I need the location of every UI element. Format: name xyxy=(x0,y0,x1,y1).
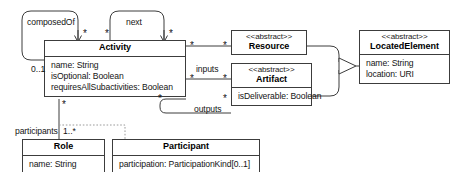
class-participant-attr-0: participation: ParticipationKind[0..1] xyxy=(119,159,254,170)
class-resource-header: <<abstract>> Resource xyxy=(232,31,306,54)
label-participants: participants xyxy=(15,126,58,136)
mult-artifact-inputs-star: * xyxy=(223,74,227,84)
mult-activity-participants-star: * xyxy=(62,100,66,110)
class-activity-attr-1: isOptional: Boolean xyxy=(51,71,180,82)
class-located-element-attributes: name: String location: URI xyxy=(360,54,449,83)
class-located-element-name: LocatedElement xyxy=(364,42,445,52)
mult-activity-outputs-star: * xyxy=(158,94,162,104)
uml-class-diagram: Activity name: String isOptional: Boolea… xyxy=(0,0,469,172)
class-located-element-attr-0: name: String xyxy=(366,58,444,69)
mult-activity-inputs-star: * xyxy=(190,74,194,84)
label-next: next xyxy=(126,17,142,27)
mult-next-right-star: * xyxy=(169,29,173,39)
class-participant[interactable]: Participant participation: Participation… xyxy=(112,139,260,172)
mult-artifact-outputs-star: * xyxy=(223,94,227,104)
class-activity[interactable]: Activity name: String isOptional: Boolea… xyxy=(44,40,186,97)
class-participant-attributes: participation: ParticipationKind[0..1] xyxy=(113,155,259,172)
class-role-header: Role xyxy=(23,140,104,155)
class-resource[interactable]: <<abstract>> Resource xyxy=(231,30,307,55)
mult-composition-end: 0..1 xyxy=(31,64,45,74)
class-artifact-header: <<abstract>> Artifact xyxy=(232,64,311,87)
class-located-element[interactable]: <<abstract>> LocatedElement name: String… xyxy=(359,30,450,84)
class-artifact-name: Artifact xyxy=(236,75,307,85)
class-role[interactable]: Role name: String xyxy=(22,139,105,172)
class-role-name: Role xyxy=(27,142,100,152)
generalization-arrowhead xyxy=(339,58,359,74)
class-participant-header: Participant xyxy=(113,140,259,155)
label-composed-of: composedOf xyxy=(27,17,75,27)
mult-activity-resource-star: * xyxy=(190,41,194,51)
edge-generalization-resource xyxy=(307,46,339,62)
class-activity-attributes: name: String isOptional: Boolean require… xyxy=(45,56,185,96)
mult-composed-of-star: * xyxy=(83,29,87,39)
class-participant-name: Participant xyxy=(117,142,255,152)
class-resource-name: Resource xyxy=(236,42,302,52)
label-inputs: inputs xyxy=(196,64,218,74)
mult-resource-end-star: * xyxy=(223,41,227,51)
label-outputs: outputs xyxy=(194,104,222,114)
class-role-attributes: name: String xyxy=(23,155,104,172)
mult-next-left-star: * xyxy=(105,29,109,39)
class-located-element-header: <<abstract>> LocatedElement xyxy=(360,31,449,54)
class-located-element-attr-1: location: URI xyxy=(366,69,444,80)
class-activity-name: Activity xyxy=(49,43,181,53)
class-activity-attr-0: name: String xyxy=(51,60,180,71)
class-role-attr-0: name: String xyxy=(29,159,99,170)
class-artifact-attr-0: isDeliverable: Boolean xyxy=(238,91,306,102)
class-activity-header: Activity xyxy=(45,41,185,56)
class-activity-attr-2: requiresAllSubactivities: Boolean xyxy=(51,82,180,93)
class-artifact[interactable]: <<abstract>> Artifact isDeliverable: Boo… xyxy=(231,63,312,106)
class-artifact-attributes: isDeliverable: Boolean xyxy=(232,87,311,105)
mult-role-end: 1..* xyxy=(63,126,76,136)
